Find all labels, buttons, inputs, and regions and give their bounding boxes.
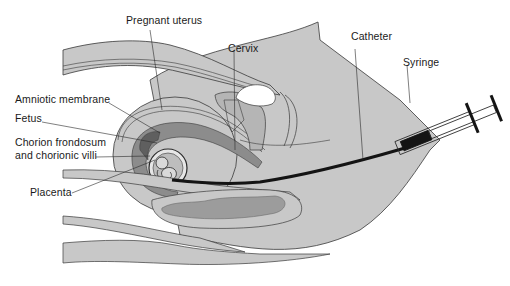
label-placenta: Placenta <box>30 186 72 198</box>
label-pregnant-uterus: Pregnant uterus <box>126 14 202 26</box>
label-cervix: Cervix <box>228 42 258 54</box>
label-amniotic-membrane: Amniotic membrane <box>15 93 110 105</box>
label-catheter: Catheter <box>351 30 392 42</box>
label-syringe: Syringe <box>403 56 439 68</box>
label-chorion-line1: Chorion frondosum <box>15 136 106 148</box>
label-fetus: Fetus <box>15 112 42 124</box>
leader-syringe <box>407 65 410 103</box>
label-chorion-line2: and chorionic villi <box>15 149 97 161</box>
